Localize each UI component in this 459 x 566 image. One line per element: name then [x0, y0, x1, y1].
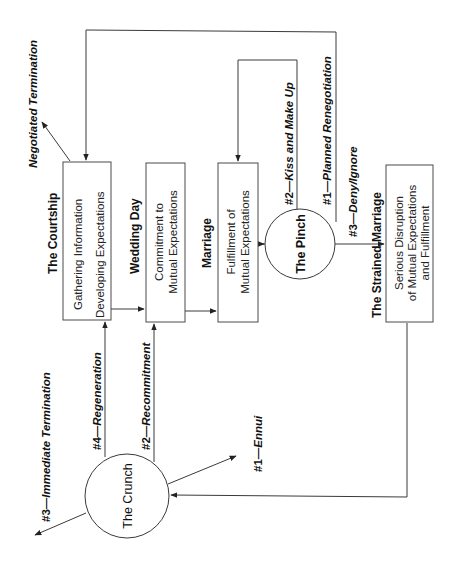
negotiated-termination-arrow	[42, 122, 70, 161]
strained-to-crunch-connector	[171, 323, 407, 497]
relationship-cycle-diagram: The Courtship Wedding Day Marriage The S…	[0, 0, 459, 566]
ennui-label: #1—Ennui	[252, 415, 264, 472]
planned-renegotiation-connector	[86, 30, 336, 222]
strained-marriage-title: The Strained Marriage	[370, 192, 384, 318]
strained-line-2: of Mutual Expectations	[406, 185, 418, 302]
planned-renegotiation-label: #1—Planned Renegotiation	[321, 56, 333, 205]
courtship-title: The Courtship	[46, 193, 60, 274]
wedding-day-title: Wedding Day	[128, 198, 142, 274]
strained-line-3: and Fulfillment	[419, 205, 431, 281]
crunch-label: The Crunch	[121, 463, 135, 528]
wedding-day-line-1: Commitment to	[153, 203, 165, 281]
recommitment-label: #2—Recommitment	[140, 341, 152, 450]
marriage-line-2: Mutual Expectations	[239, 190, 251, 294]
regeneration-label: #4—Regeneration	[91, 352, 103, 450]
immediate-termination-label: #3—Immediate Termination	[40, 372, 52, 522]
marriage-box	[218, 163, 258, 322]
marriage-line-1: Fulfillment of	[225, 209, 237, 275]
negotiated-termination-label: Negotiated Termination	[27, 40, 39, 168]
pinch-label: The Pinch	[294, 214, 308, 274]
marriage-title: Marriage	[200, 218, 214, 268]
deny-ignore-label: #3—Deny/Ignore	[347, 146, 359, 237]
wedding-day-box	[146, 163, 185, 322]
kiss-make-up-label: #2—Kiss and Make Up	[283, 82, 295, 205]
wedding-day-line-2: Mutual Expectations	[167, 190, 179, 294]
courtship-line-1: Gathering Information	[72, 199, 84, 310]
courtship-line-2: Developing Expectations	[94, 191, 106, 318]
ennui-arrow	[168, 456, 236, 484]
strained-line-1: Serious Disruption	[393, 196, 405, 290]
